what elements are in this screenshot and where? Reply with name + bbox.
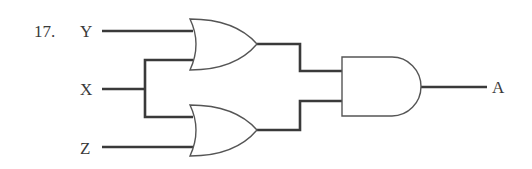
output-label-a: A: [492, 78, 505, 97]
and-gate: [342, 57, 421, 116]
input-label-y: Y: [80, 22, 92, 41]
problem-number: 17.: [34, 22, 55, 41]
logic-circuit-diagram: 17. Y X Z A: [0, 0, 532, 169]
input-label-z: Z: [80, 139, 90, 158]
wire-x-branch: [145, 60, 193, 117]
wires: [102, 31, 487, 147]
wire-or-top-to-and: [257, 44, 343, 71]
wire-or-bottom-to-and: [257, 101, 343, 130]
or-gate-bottom: [190, 105, 257, 156]
input-label-x: X: [80, 80, 92, 99]
or-gate-top: [190, 19, 257, 70]
